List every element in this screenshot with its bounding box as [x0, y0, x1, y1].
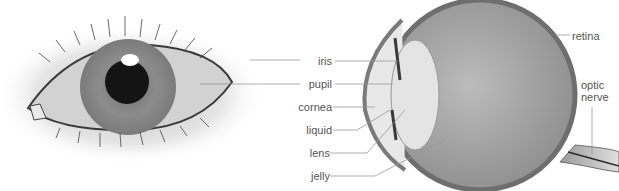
eye-illustrations	[0, 0, 619, 191]
label-optic-nerve-line2: nerve	[581, 91, 609, 103]
label-optic-nerve-line1: optic	[581, 79, 604, 91]
label-cornea: cornea	[282, 101, 332, 113]
label-liquid: liquid	[290, 124, 332, 136]
label-lens: lens	[290, 147, 330, 159]
label-jelly: jelly	[290, 170, 330, 182]
label-pupil: pupil	[296, 78, 332, 90]
label-iris: iris	[296, 55, 332, 67]
front-eye-illustration	[0, 16, 265, 165]
label-retina: retina	[572, 30, 600, 42]
eye-anatomy-diagram: iris pupil cornea liquid lens jelly reti…	[0, 0, 619, 191]
